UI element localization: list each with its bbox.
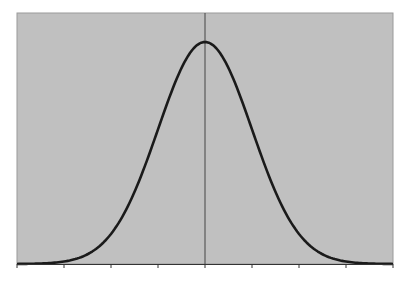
normal-distribution-chart: [0, 0, 405, 282]
